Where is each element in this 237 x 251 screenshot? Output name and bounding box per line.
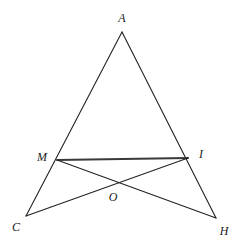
geometry-figure: AMICHO (0, 0, 237, 251)
vertex-label-h: H (220, 225, 229, 237)
segments-group (26, 32, 216, 218)
vertex-label-o: O (109, 191, 118, 203)
segment-M-I (57, 158, 188, 160)
geometry-canvas (0, 0, 237, 251)
segment-A-H (122, 32, 216, 218)
segment-A-C (26, 32, 122, 216)
vertex-label-a: A (118, 12, 125, 24)
segment-C-I (26, 158, 188, 216)
segment-M-H (57, 160, 216, 218)
vertex-label-i: I (199, 148, 203, 160)
vertex-label-m: M (37, 151, 47, 163)
vertex-label-c: C (12, 221, 20, 233)
